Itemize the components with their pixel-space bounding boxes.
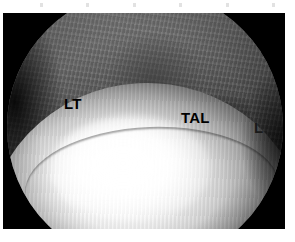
- scan-artifact-tick: [226, 3, 229, 7]
- arthroscopy-figure: LT TAL L: [0, 0, 295, 242]
- cartilage-specular-highlight: [51, 116, 211, 221]
- scan-artifact-row: [0, 0, 295, 13]
- scan-artifact-tick: [133, 3, 136, 7]
- arthroscope-frame: LT TAL L: [3, 13, 285, 229]
- scan-artifact-tick: [179, 3, 182, 7]
- scan-artifact-tick: [40, 3, 43, 7]
- annotation-label-l: L: [254, 120, 263, 135]
- annotation-label-lt: LT: [64, 96, 82, 111]
- arthroscope-field-of-view: [7, 13, 283, 229]
- scan-artifact-tick: [86, 3, 89, 7]
- scan-artifact-tick: [272, 3, 275, 7]
- lateral-gutter-shadow: [217, 72, 283, 204]
- annotation-label-tal: TAL: [181, 110, 210, 125]
